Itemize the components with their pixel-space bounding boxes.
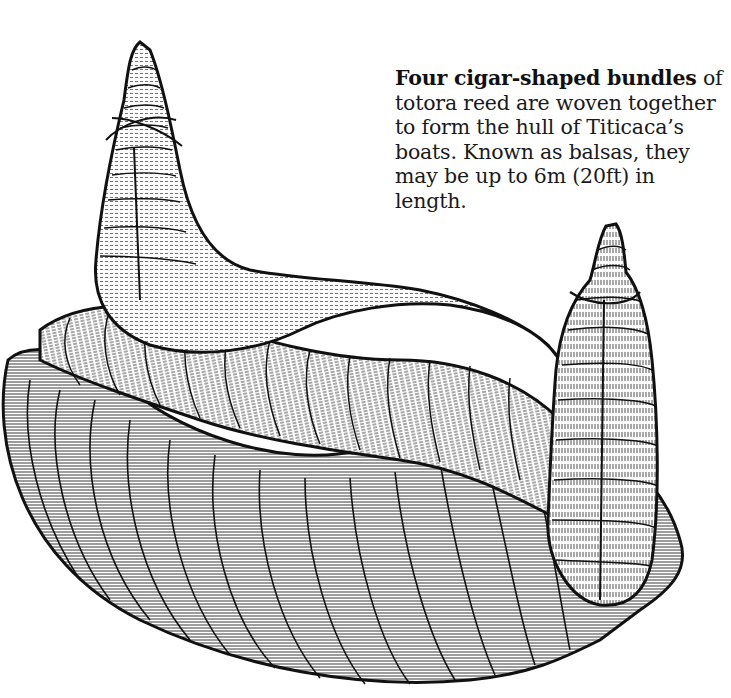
reed-boat-illustration: Four cigar-shaped bundles of totora reed… [0,0,731,698]
illustration-caption: Four cigar-shaped bundles of totora reed… [395,66,725,213]
caption-lead: Four cigar-shaped bundles [395,66,697,90]
